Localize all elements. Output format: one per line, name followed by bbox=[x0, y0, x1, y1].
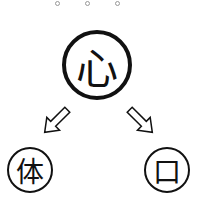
child-node-label-right: 口 bbox=[153, 150, 181, 190]
child-node-karada: 体 bbox=[7, 147, 53, 193]
child-node-kuchi: 口 bbox=[144, 147, 190, 193]
arrow-to-right-icon bbox=[123, 103, 158, 138]
arrow-to-left-icon bbox=[38, 103, 73, 138]
child-node-label-left: 体 bbox=[16, 150, 44, 190]
